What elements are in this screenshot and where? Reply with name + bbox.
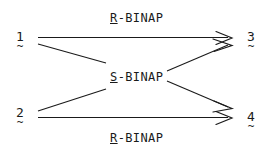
arrow-1-to-4-shaft-left xyxy=(38,44,106,63)
reaction-scheme-diagram: 1 ~ 2 ~ 3 ~ 4 ~ R-BINAP S-BINAP R-BINAP xyxy=(0,0,275,155)
arrow-1-to-4-left-segment xyxy=(38,44,106,63)
reagent-label-middle: S-BINAP xyxy=(110,70,163,84)
node-4-tilde: ~ xyxy=(243,124,259,130)
reagent-label-top: R-BINAP xyxy=(110,11,163,25)
reagent-middle-rest: -BINAP xyxy=(118,70,164,84)
node-label-1: 1 ~ xyxy=(12,30,28,50)
node-label-3: 3 ~ xyxy=(243,30,259,50)
arrow-1-to-3 xyxy=(38,32,232,45)
arrow-1-to-4-right-segment xyxy=(167,81,232,112)
arrow-2-to-3-right-segment xyxy=(167,39,232,71)
arrow-2-to-3-shaft-right xyxy=(167,45,228,71)
node-3-tilde: ~ xyxy=(243,44,259,50)
node-label-4: 4 ~ xyxy=(243,110,259,130)
reagent-bottom-stereo: R xyxy=(110,131,118,145)
reagent-top-stereo: R xyxy=(110,11,118,25)
node-1-tilde: ~ xyxy=(12,44,28,50)
node-2-tilde: ~ xyxy=(12,120,28,126)
arrow-1-to-4-head xyxy=(213,101,232,112)
arrow-2-to-3-shaft-left xyxy=(38,89,106,111)
arrow-2-to-4 xyxy=(38,112,232,125)
reagent-bottom-rest: -BINAP xyxy=(118,131,164,145)
arrow-2-to-3-left-segment xyxy=(38,89,106,111)
reagent-label-bottom: R-BINAP xyxy=(110,131,163,145)
reagent-middle-stereo: S xyxy=(110,70,118,84)
reagent-top-rest: -BINAP xyxy=(118,11,164,25)
node-label-2: 2 ~ xyxy=(12,106,28,126)
